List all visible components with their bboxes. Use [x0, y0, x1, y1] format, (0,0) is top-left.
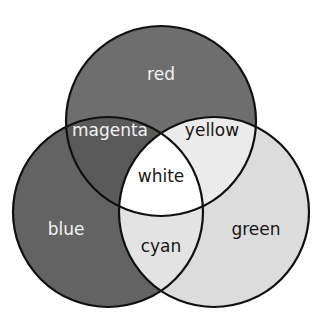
venn-diagram-canvas: red blue green magenta yellow cyan white — [0, 0, 322, 321]
venn-diagram-svg: red blue green magenta yellow cyan white — [0, 0, 322, 321]
